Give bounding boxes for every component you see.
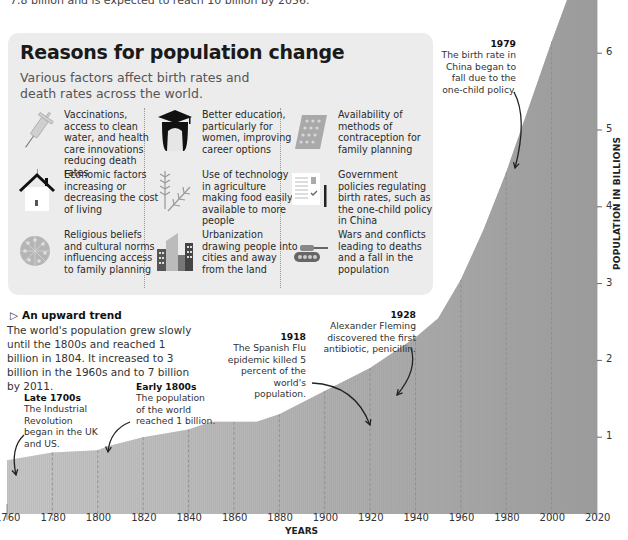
x-tick-label: 1960 [449, 512, 474, 523]
x-tick-label: 2000 [540, 512, 565, 523]
annotation-1918: 1918 The Spanish Flu epidemic killed 5 p… [220, 331, 306, 399]
annotation-1979: 1979 The birth rate in China began to fa… [436, 38, 516, 95]
x-tick-label: 1980 [494, 512, 519, 523]
religion-wheel-icon [18, 229, 56, 273]
policy-document-icon [292, 169, 330, 213]
y-tick-label: 5 [606, 123, 612, 134]
x-tick-label: 1780 [40, 512, 65, 523]
x-tick-label: 1900 [313, 512, 338, 523]
y-tick-label: 6 [606, 46, 612, 57]
syringe-icon [18, 109, 56, 153]
reasons-panel: Reasons for population change Various fa… [8, 33, 433, 295]
x-tick-label: 2020 [585, 512, 610, 523]
y-tick-label: 3 [606, 277, 612, 288]
x-tick-label: 1920 [358, 512, 383, 523]
x-tick-label: 1860 [222, 512, 247, 523]
trend-title: ▷An upward trend [10, 309, 122, 321]
x-tick-label: 1880 [267, 512, 292, 523]
panel-subtitle: Various factors affect birth rates and d… [20, 70, 280, 102]
wheat-icon [156, 169, 194, 213]
y-axis-label: POPULATION IN BILLIONS [612, 137, 622, 270]
graduate-icon [156, 109, 194, 153]
house-icon [18, 169, 56, 213]
annotation-early-1800s: Early 1800s The population of the world … [136, 381, 216, 427]
panel-title: Reasons for population change [20, 41, 344, 63]
annotation-late-1700s: Late 1700s The Industrial Revolution beg… [24, 392, 104, 449]
y-tick-label: 2 [606, 353, 612, 364]
triangle-pointer-icon: ▷ [10, 309, 18, 321]
x-tick-label: 1800 [86, 512, 111, 523]
x-tick-label: 1940 [403, 512, 428, 523]
x-axis-label: YEARS [285, 526, 318, 536]
contraceptive-pills-icon [292, 109, 330, 153]
y-tick-label: 1 [606, 430, 612, 441]
tank-icon [292, 229, 330, 273]
x-tick-label: 1820 [131, 512, 156, 523]
x-tick-label: 1760 [0, 512, 20, 523]
annotation-1928: 1928 Alexander Fleming discovered the fi… [318, 309, 416, 355]
x-tick-label: 1840 [177, 512, 202, 523]
city-buildings-icon [156, 229, 194, 273]
